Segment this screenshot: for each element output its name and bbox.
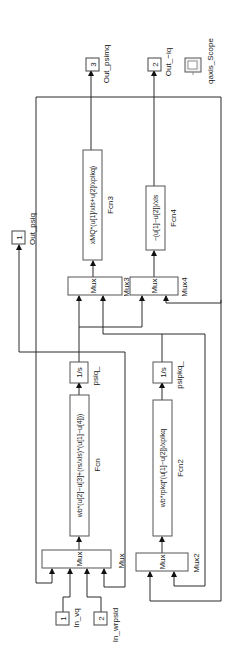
fcn4-block[interactable]: −(u[1]−u[2])/xls Fcn4	[146, 186, 178, 250]
port-number: 2	[97, 616, 106, 621]
port-number: 1	[15, 235, 24, 240]
mux3-glyph: Mux	[89, 278, 98, 293]
inport-in-vq[interactable]: 1 In_vq	[56, 608, 81, 628]
wire-psiq-branch-mux4[interactable]	[79, 296, 142, 327]
integrator-psipkq[interactable]: 1/s psipkq_	[153, 361, 184, 389]
mux-label: Mux	[117, 553, 126, 568]
integrator-label: psipkq_	[175, 361, 184, 389]
scope-icon	[185, 58, 201, 75]
port-label: Out_psiq	[28, 213, 37, 245]
mux4-label: Mux4	[180, 277, 189, 297]
mux4-block[interactable]: Mux Mux4	[130, 277, 189, 297]
fcn2-label: Fcn2	[176, 459, 185, 477]
block-diagram-canvas: 3 Out_psimq 2 Out_−iq qaxis_Scope 1 Out_…	[0, 0, 238, 670]
port-label: In_wrpsid	[111, 608, 120, 642]
wire-outer-left[interactable]	[36, 97, 52, 583]
fcn-label: Fcn	[93, 458, 102, 471]
mux4-glyph: Mux	[150, 278, 159, 293]
mux-glyph: Mux	[75, 551, 84, 566]
port-number: 2	[151, 62, 160, 67]
port-label: In_vq	[72, 608, 81, 628]
integrator-label: psiq_	[91, 366, 100, 386]
outport-out-psiq[interactable]: 1 Out_psiq	[12, 213, 37, 245]
integrator-glyph: 1/s	[75, 367, 84, 378]
fcn3-label: Fcn3	[106, 196, 115, 214]
inport-in-wrpsid[interactable]: 2 In_wrpsid	[94, 608, 120, 642]
scope-label: qaxis_Scope	[206, 38, 215, 84]
fcn2-expression: wb*rpkq*(u[1]−u[2])/xplkq	[159, 429, 167, 509]
integrator-psiq[interactable]: 1/s psiq_	[70, 362, 100, 386]
mux2-block[interactable]: Mux Mux2	[136, 553, 201, 573]
wire-to-mux4-in2[interactable]	[166, 296, 221, 303]
fcn4-label: Fcn4	[169, 209, 178, 227]
fcn4-expression: −(u[1]−u[2])/xls	[152, 194, 160, 241]
fcn-block[interactable]: wb*(u[2]−u[3]+(rs/xls)*(u[1]−u[4])) Fcn	[70, 395, 102, 536]
mux3-block[interactable]: Mux Mux3	[68, 277, 131, 297]
mux2-label: Mux2	[192, 553, 201, 573]
outport-out-psimq[interactable]: 3 Out_psimq	[86, 45, 111, 84]
mux-block[interactable]: Mux Mux	[42, 550, 126, 569]
fcn3-block[interactable]: xMQ*(u[1]/xls+u[2]/xplkq) Fcn3	[83, 150, 115, 260]
port-number: 1	[59, 616, 68, 621]
outport-out-iq[interactable]: 2 Out_−iq	[148, 48, 173, 76]
scope-qaxis[interactable]: qaxis_Scope	[185, 38, 215, 84]
wire-in-vq-to-mux[interactable]	[63, 569, 70, 612]
fcn-expression: wb*(u[2]−u[3]+(rs/xls)*(u[1]−u[4]))	[76, 414, 84, 519]
signal-wires	[19, 71, 221, 612]
fcn2-block[interactable]: wb*rpkq*(u[1]−u[2])/xplkq Fcn2	[153, 400, 185, 536]
fcn3-expression: xMQ*(u[1]/xls+u[2]/xplkq)	[89, 166, 97, 244]
wire-psiq-feedback-mux-in4[interactable]	[104, 569, 125, 587]
port-label: Out_−iq	[164, 48, 173, 76]
port-number: 3	[89, 62, 98, 67]
port-label: Out_psimq	[102, 45, 111, 84]
mux2-glyph: Mux	[158, 554, 167, 569]
integrator-glyph: 1/s	[159, 367, 168, 378]
wire-in-wrpsid-to-mux[interactable]	[87, 569, 101, 612]
